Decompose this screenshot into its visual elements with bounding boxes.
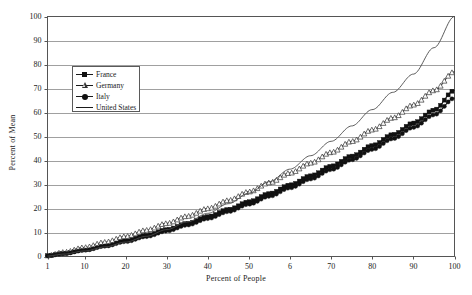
x-tick-label: 70 (318, 262, 344, 271)
legend-label-united-states: United States (93, 103, 136, 112)
chart-figure: 0102030405060708090100 11020304050670809… (0, 0, 472, 295)
y-tick-label: 100 (16, 12, 42, 21)
legend-marker-filled-square-icon (76, 69, 93, 80)
x-tick-label: 40 (195, 262, 221, 271)
x-tick-label: 20 (113, 262, 139, 271)
chart-legend: France Germany Italy United States (72, 66, 140, 112)
figure-caption (0, 288, 472, 295)
legend-item-united-states: United States (73, 102, 139, 113)
series-france (46, 89, 455, 258)
chart-plot-area (0, 0, 472, 295)
y-tick-label: 50 (16, 132, 42, 141)
x-tick-label: 90 (400, 262, 426, 271)
legend-label-italy: Italy (93, 92, 110, 101)
y-tick-label: 80 (16, 60, 42, 69)
x-tick-label: 50 (236, 262, 262, 271)
y-axis-title: Percent of Mean (8, 98, 17, 188)
legend-item-italy: Italy (73, 91, 139, 102)
legend-marker-plain-line-icon (76, 102, 93, 113)
x-tick-label: 6 (277, 262, 303, 271)
y-tick-label: 90 (16, 36, 42, 45)
legend-label-france: France (93, 70, 116, 79)
y-tick-label: 70 (16, 84, 42, 93)
legend-label-germany: Germany (93, 81, 124, 90)
y-tick-label: 60 (16, 108, 42, 117)
y-tick-label: 10 (16, 228, 42, 237)
legend-item-france: France (73, 69, 139, 80)
x-tick-label: 1 (35, 262, 61, 271)
y-tick-label: 40 (16, 156, 42, 165)
y-tick-label: 0 (16, 252, 42, 261)
x-tick-label: 10 (72, 262, 98, 271)
x-tick-label: 80 (359, 262, 385, 271)
y-tick-label: 30 (16, 180, 42, 189)
y-tick-label: 20 (16, 204, 42, 213)
x-tick-label: 30 (154, 262, 180, 271)
legend-item-germany: Germany (73, 80, 139, 91)
legend-marker-filled-circle-icon (76, 91, 93, 102)
legend-marker-open-triangle-icon (76, 80, 93, 91)
x-axis-title: Percent of People (0, 274, 472, 283)
x-tick-label: 100 (442, 262, 468, 271)
